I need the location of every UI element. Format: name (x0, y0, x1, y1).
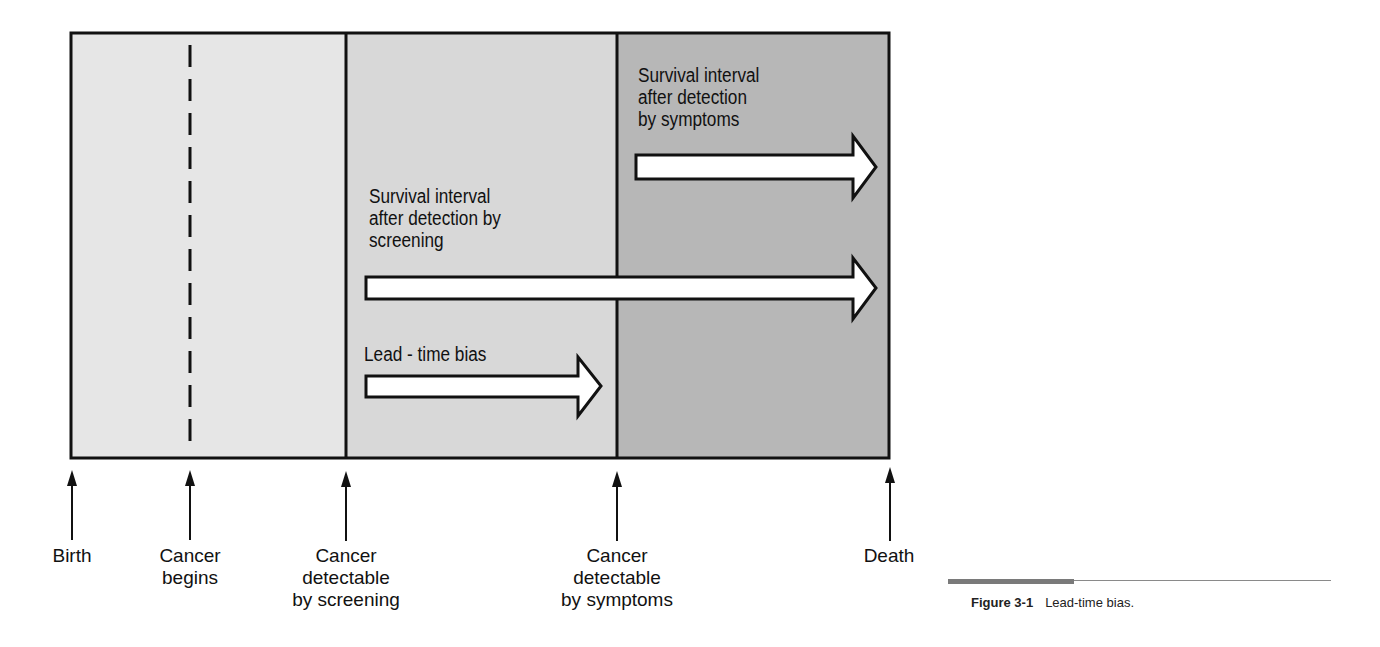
label-survival-after-screening: Survival interval after detection by scr… (369, 185, 501, 251)
label-survival-after-symptoms: Survival interval after detection by sym… (638, 64, 759, 130)
event-label-screening-detectable: Cancer detectable by screening (256, 545, 436, 611)
figure-number: Figure 3-1 (971, 595, 1033, 610)
pointer-death-icon (885, 467, 895, 541)
pointer-birth-icon (67, 470, 77, 540)
pointer-screening-detectable-icon (341, 471, 351, 541)
label-lead-time-bias: Lead - time bias (364, 343, 486, 365)
figure-caption: Figure 3-1Lead-time bias. (971, 595, 1134, 610)
event-label-cancer-begins: Cancer begins (100, 545, 280, 589)
region-birth-to-screening (71, 33, 346, 458)
figure-caption-text: Lead-time bias. (1045, 595, 1134, 610)
event-label-death: Death (799, 545, 979, 567)
pointer-cancer-begins-icon (185, 470, 195, 540)
event-label-symptom-detectable: Cancer detectable by symptoms (527, 545, 707, 611)
caption-accent-bar (948, 579, 1074, 584)
lead-time-bias-diagram: Survival interval after detection by sym… (0, 0, 1380, 647)
pointer-symptom-detectable-icon (612, 471, 622, 541)
